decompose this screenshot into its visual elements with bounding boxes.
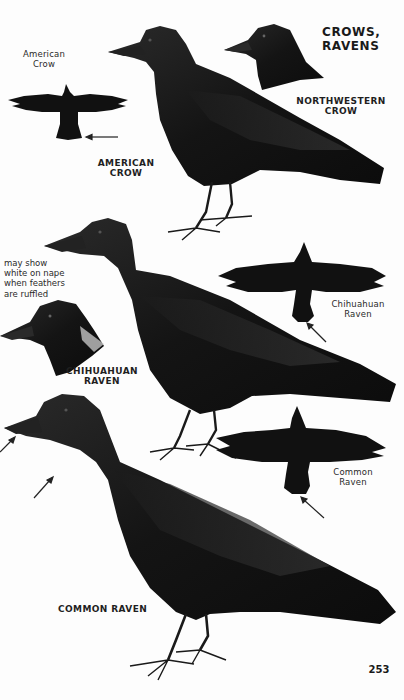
chihuahuan-raven-note: may show white on nape when feathers are… bbox=[4, 258, 84, 299]
page-number: 253 bbox=[364, 664, 394, 676]
american-crow-flight-silhouette bbox=[8, 84, 128, 140]
arrow-icon bbox=[307, 323, 326, 342]
northwestern-crow-illustration bbox=[224, 24, 324, 90]
arrow-icon bbox=[0, 437, 53, 498]
american-crow-illustration bbox=[108, 26, 384, 240]
arrow-icon bbox=[301, 497, 324, 518]
northwestern-crow-label: NORTHWESTERN CROW bbox=[286, 96, 396, 117]
american-crow-flight-label: American Crow bbox=[14, 50, 74, 70]
common-raven-flight-label: Common Raven bbox=[318, 468, 388, 488]
chihuahuan-raven-label: CHIHUAHUAN RAVEN bbox=[62, 366, 142, 387]
page-heading: CROWS, RAVENS bbox=[322, 26, 380, 54]
common-raven-label: COMMON RAVEN bbox=[58, 604, 168, 614]
american-crow-label: AMERICAN CROW bbox=[90, 158, 162, 179]
arrow-icon bbox=[86, 135, 118, 140]
field-guide-page: CROWS, RAVENS American Crow NORTHWESTERN… bbox=[0, 0, 404, 700]
chihuahuan-raven-head-illustration bbox=[0, 300, 104, 376]
chihuahuan-raven-flight-label: Chihuahuan Raven bbox=[318, 300, 398, 320]
